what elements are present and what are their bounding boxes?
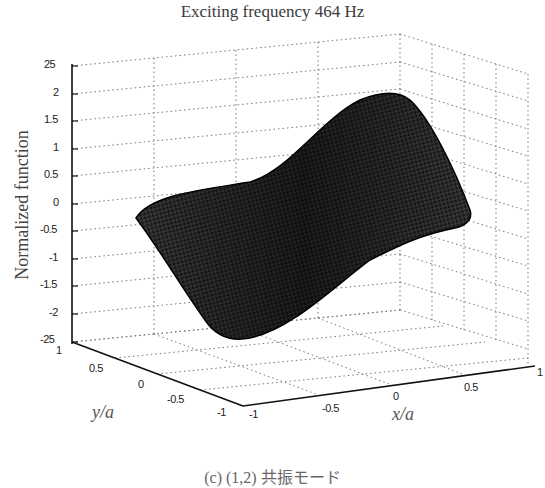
- z-tick: 1.5: [44, 113, 58, 125]
- x-tick: 0.5: [464, 381, 478, 393]
- x-tick: -1: [249, 408, 258, 420]
- y-tick: 1: [56, 344, 62, 356]
- x-tick: -0.5: [322, 402, 339, 414]
- z-tick: 25: [44, 58, 55, 70]
- z-tick: -25: [40, 333, 54, 345]
- y-axis-label: y/a: [92, 402, 114, 423]
- z-tick: 1: [53, 141, 59, 153]
- x-tick: 0: [393, 390, 399, 402]
- mode-surface: [136, 93, 471, 339]
- x-tick: 1: [537, 366, 543, 378]
- z-tick: -0.5: [40, 223, 57, 235]
- z-tick: 0.5: [44, 168, 58, 180]
- z-tick: 2: [53, 86, 59, 98]
- y-tick: -1: [217, 406, 226, 418]
- z-tick: -1.5: [40, 278, 57, 290]
- x-axis-label: x/a: [392, 404, 414, 425]
- y-tick: 0.5: [89, 362, 103, 374]
- z-tick: 0: [53, 196, 59, 208]
- y-tick: -0.5: [167, 393, 184, 405]
- y-tick: 0: [138, 378, 144, 390]
- z-tick: -1: [49, 251, 58, 263]
- figure-caption: (c) (1,2) 共振モード: [0, 464, 545, 488]
- axis-ticks: [72, 66, 78, 342]
- z-tick: -2: [49, 306, 58, 318]
